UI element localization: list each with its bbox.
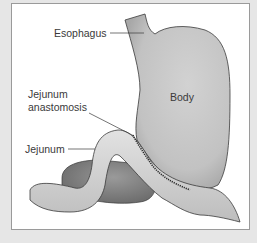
- stomach-diagram-illustration: [0, 0, 257, 243]
- label-jejunum-anastomosis-line1: Jejunum: [28, 88, 68, 100]
- label-jejunum-anastomosis-line2: anastomosis: [28, 101, 87, 113]
- label-body: Body: [170, 91, 194, 103]
- label-esophagus: Esophagus: [54, 27, 107, 39]
- label-jejunum: Jejunum: [25, 143, 65, 155]
